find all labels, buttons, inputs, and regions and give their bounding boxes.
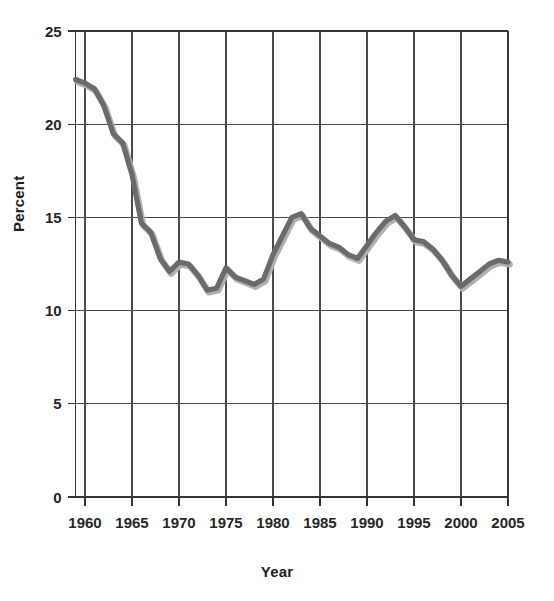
- chart-figure: 1960196519701975198019851990199520002005…: [0, 0, 554, 601]
- line-chart-plot: 1960196519701975198019851990199520002005…: [0, 0, 554, 601]
- y-tick-label: 5: [53, 395, 61, 412]
- data-series-poverty-rate: [76, 79, 510, 292]
- y-axis-title: Percent: [10, 176, 27, 232]
- y-tick-label: 15: [45, 209, 62, 226]
- x-tick-label: 1995: [397, 514, 430, 531]
- y-tick-label: 10: [45, 302, 62, 319]
- x-tick-label: 1980: [256, 514, 289, 531]
- tick-marks: [68, 31, 508, 506]
- y-tick-label: 20: [45, 116, 62, 133]
- y-tick-label: 25: [45, 23, 62, 40]
- x-tick-labels: 1960196519701975198019851990199520002005: [68, 514, 524, 531]
- y-tick-label: 0: [53, 489, 61, 506]
- x-tick-label: 2000: [444, 514, 477, 531]
- x-tick-label: 2005: [491, 514, 524, 531]
- x-tick-label: 1970: [162, 514, 195, 531]
- x-axis-title: Year: [0, 563, 554, 580]
- y-tick-labels: 0510152025: [45, 23, 62, 506]
- x-tick-label: 1960: [68, 514, 101, 531]
- x-tick-label: 1975: [209, 514, 242, 531]
- x-tick-label: 1985: [303, 514, 336, 531]
- x-tick-label: 1965: [115, 514, 148, 531]
- series-line-percent: [76, 79, 508, 290]
- x-tick-label: 1990: [350, 514, 383, 531]
